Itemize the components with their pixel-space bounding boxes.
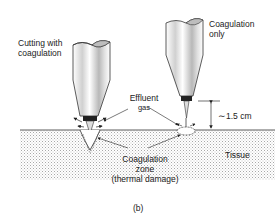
label-coagulation-only: Coagulation only <box>209 19 254 39</box>
coagulation-spot <box>177 118 195 135</box>
label-effluent-gas: Effluent gas <box>124 93 164 113</box>
label-tissue: Tissue <box>225 150 250 160</box>
panel-label: (b) <box>133 203 143 213</box>
label-coagulation-zone: Coagulation zone (thermal damage) <box>104 154 186 184</box>
distance-indicator <box>198 101 220 128</box>
label-cutting-with-coagulation: Cutting with coagulation <box>18 38 62 58</box>
coagulation-electrode <box>166 19 203 118</box>
label-distance: ∼1.5 cm <box>218 111 252 121</box>
